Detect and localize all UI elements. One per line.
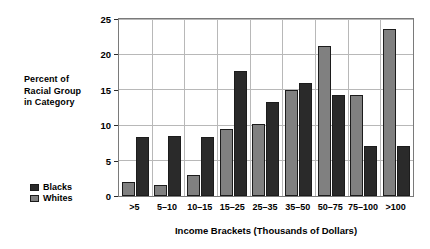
bar-group (152, 19, 185, 196)
bar-whites (220, 129, 233, 196)
bar-blacks (332, 95, 345, 196)
bar-group (282, 19, 315, 196)
x-tick-label: 50–75 (318, 202, 343, 212)
y-axis-label: Percent of Racial Group in Category (24, 74, 110, 109)
y-tick-mark (114, 125, 118, 126)
y-tick-label: 5 (106, 155, 111, 166)
x-tick-label: >100 (386, 202, 406, 212)
y-tick-mark (114, 161, 118, 162)
bar-group (217, 19, 250, 196)
bar-blacks (201, 137, 214, 196)
y-tick-mark (114, 54, 118, 55)
x-tick-label: 25–35 (252, 202, 277, 212)
x-tick-label: >5 (129, 202, 139, 212)
bar-group (380, 19, 413, 196)
legend-item-blacks: Blacks (30, 182, 73, 192)
bar-blacks (234, 71, 247, 196)
bar-chart-figure: Percent of Racial Group in Category Blac… (0, 0, 430, 249)
plot-area: 0510152025 (118, 18, 414, 197)
bar-group (250, 19, 283, 196)
bar-whites (350, 95, 363, 196)
y-tick-label: 0 (106, 191, 111, 202)
legend-label-blacks: Blacks (43, 182, 72, 192)
x-tick-label: 35–50 (285, 202, 310, 212)
bar-blacks (168, 136, 181, 196)
x-tick-label: 10–15 (187, 202, 212, 212)
y-axis-label-line-1: Percent of (24, 74, 110, 86)
bar-group (315, 19, 348, 196)
y-tick-label: 10 (100, 120, 111, 131)
bar-whites (122, 182, 135, 196)
y-axis-label-line-3: in Category (24, 97, 110, 109)
legend-label-whites: Whites (43, 193, 73, 203)
bar-group (348, 19, 381, 196)
bar-whites (187, 175, 200, 196)
y-tick-mark (114, 196, 118, 197)
bar-whites (154, 185, 167, 196)
bar-whites (252, 124, 265, 196)
legend-swatch-blacks (30, 184, 39, 191)
bar-blacks (266, 102, 279, 196)
y-axis-label-line-2: Racial Group (24, 86, 110, 98)
bar-whites (285, 90, 298, 196)
plot-inner (119, 19, 413, 196)
y-tick-label: 20 (100, 49, 111, 60)
x-tick-label: 15–25 (220, 202, 245, 212)
y-tick-mark (114, 90, 118, 91)
x-tick-label: 75–100 (348, 202, 378, 212)
bar-whites (383, 29, 396, 196)
x-tick-label: 5–10 (157, 202, 177, 212)
chart-legend: Blacks Whites (30, 182, 73, 204)
legend-item-whites: Whites (30, 193, 73, 203)
y-tick-mark (114, 19, 118, 20)
bar-blacks (397, 146, 410, 196)
bar-blacks (364, 146, 377, 196)
bar-group (119, 19, 152, 196)
legend-swatch-whites (30, 195, 39, 202)
y-tick-label: 25 (100, 14, 111, 25)
bar-blacks (299, 83, 312, 196)
bar-group (184, 19, 217, 196)
x-axis-label: Income Brackets (Thousands of Dollars) (118, 225, 414, 236)
y-tick-label: 15 (100, 84, 111, 95)
bar-whites (318, 46, 331, 196)
bar-blacks (136, 137, 149, 196)
